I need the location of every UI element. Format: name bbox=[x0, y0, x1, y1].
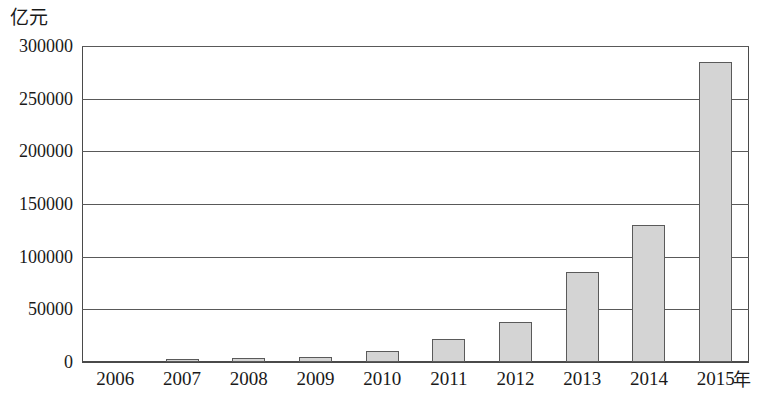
y-axis-tick-label: 0 bbox=[0, 353, 73, 371]
gridline bbox=[82, 204, 749, 205]
gridline bbox=[82, 151, 749, 152]
y-axis-tick-mark bbox=[740, 309, 749, 310]
x-axis-tick-label: 2008 bbox=[215, 368, 283, 390]
y-axis-tick-label: 150000 bbox=[0, 195, 73, 213]
x-axis-tick-label: 2011 bbox=[415, 368, 483, 390]
y-axis-unit-label: 亿元 bbox=[10, 2, 48, 29]
x-axis-tick-label: 2013 bbox=[548, 368, 616, 390]
y-axis-tick-label: 300000 bbox=[0, 37, 73, 55]
x-axis-name-label: 年 bbox=[733, 369, 751, 391]
bar bbox=[366, 351, 399, 362]
x-axis-tick-label: 2010 bbox=[348, 368, 416, 390]
y-axis-tick-label: 200000 bbox=[0, 142, 73, 160]
bar bbox=[499, 322, 532, 362]
y-axis-tick-mark bbox=[740, 151, 749, 152]
bar bbox=[632, 225, 665, 362]
y-axis-tick-mark bbox=[740, 99, 749, 100]
bar bbox=[166, 359, 199, 362]
y-axis-tick-mark bbox=[740, 257, 749, 258]
bar bbox=[699, 62, 732, 362]
x-axis-tick-label: 2012 bbox=[482, 368, 550, 390]
bar bbox=[432, 339, 465, 362]
y-axis-tick-label: 50000 bbox=[0, 300, 73, 318]
x-axis-tick-label: 2007 bbox=[148, 368, 216, 390]
bar-chart: 亿元 050000100000150000200000250000300000 … bbox=[0, 0, 759, 398]
y-axis-tick-label: 250000 bbox=[0, 90, 73, 108]
gridline bbox=[82, 362, 749, 363]
gridline bbox=[82, 99, 749, 100]
gridline bbox=[82, 46, 749, 47]
bar bbox=[299, 357, 332, 362]
x-axis-tick-label: 2009 bbox=[281, 368, 349, 390]
x-axis-tick-label: 2006 bbox=[81, 368, 149, 390]
bar bbox=[232, 358, 265, 362]
y-axis-tick-mark bbox=[740, 204, 749, 205]
x-axis-tick-label: 2014 bbox=[615, 368, 683, 390]
y-axis-tick-label: 100000 bbox=[0, 248, 73, 266]
bar bbox=[566, 272, 599, 362]
